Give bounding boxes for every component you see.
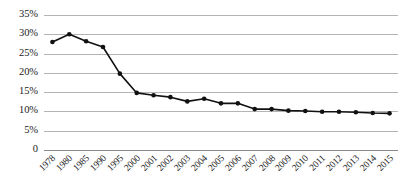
- x-axis-tick-label: 1980: [54, 153, 74, 173]
- data-point-marker: [370, 111, 375, 116]
- x-axis-tick-label: 1995: [105, 153, 125, 173]
- data-point-marker: [236, 101, 241, 106]
- x-axis-tick-label: 2008: [257, 153, 277, 173]
- x-axis-tick-label: 2012: [324, 153, 344, 173]
- y-axis-tick-label: 5%: [24, 125, 38, 136]
- data-point-marker: [50, 40, 55, 45]
- y-axis-tick-label: 20%: [19, 67, 38, 78]
- x-axis-tick-label: 2013: [341, 153, 361, 173]
- y-axis-tick-label: 35%: [19, 9, 38, 20]
- x-axis-tick-label: 2001: [139, 153, 159, 173]
- x-axis-tick-label: 2011: [308, 153, 328, 173]
- data-point-marker: [168, 95, 173, 100]
- data-point-marker: [320, 110, 325, 115]
- data-point-marker: [67, 32, 72, 37]
- x-axis-tick-label: 2014: [358, 153, 378, 173]
- x-axis-tick-label: 2009: [274, 153, 294, 173]
- data-point-marker: [202, 96, 207, 101]
- x-axis-tick-label: 2003: [172, 153, 192, 173]
- x-axis-tick-label: 2004: [189, 153, 209, 173]
- data-point-marker: [219, 101, 224, 106]
- data-point-marker: [185, 99, 190, 104]
- data-point-marker: [286, 108, 291, 113]
- x-axis-tick-label: 2000: [122, 153, 142, 173]
- data-point-marker: [84, 39, 89, 44]
- y-axis-tick-label: 10%: [19, 105, 38, 116]
- data-point-marker: [101, 45, 106, 50]
- data-point-marker: [303, 109, 308, 114]
- y-axis-tick-label: 15%: [19, 86, 38, 97]
- data-point-marker: [151, 93, 156, 98]
- plot-area: [44, 15, 398, 150]
- y-axis-tick-label: 25%: [19, 48, 38, 59]
- x-axis-tick-label: 1990: [88, 153, 108, 173]
- data-point-marker: [354, 110, 359, 115]
- x-axis-labels: 1978198019851990199520002001200220032004…: [44, 150, 398, 194]
- data-point-marker: [118, 71, 123, 76]
- y-axis-labels: 35%30%25%20%15%10%5%0: [0, 0, 42, 194]
- data-point-marker: [337, 110, 342, 115]
- x-axis-tick-label: 2002: [156, 153, 176, 173]
- x-axis-tick-label: 2006: [223, 153, 243, 173]
- data-point-marker: [252, 107, 257, 112]
- y-axis-tick-label: 30%: [19, 28, 38, 39]
- data-point-marker: [387, 111, 392, 116]
- data-point-marker: [269, 107, 274, 112]
- x-axis-tick-label: 2010: [290, 153, 310, 173]
- x-axis-tick-label: 2005: [206, 153, 226, 173]
- y-axis-tick-label: 0: [33, 144, 38, 155]
- data-series-line: [44, 15, 398, 150]
- line-chart: 35%30%25%20%15%10%5%0 197819801985199019…: [0, 0, 412, 194]
- x-axis-tick-label: 2015: [375, 153, 395, 173]
- series-markers: [50, 32, 392, 116]
- data-point-marker: [134, 91, 139, 96]
- x-axis-tick-label: 2007: [240, 153, 260, 173]
- x-axis-tick-label: 1985: [71, 153, 91, 173]
